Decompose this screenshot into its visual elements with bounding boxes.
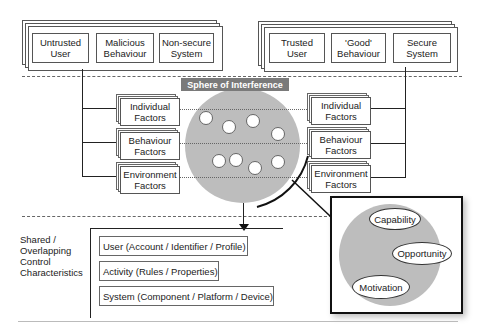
- malicious-behaviour-box: Malicious Behaviour: [96, 33, 154, 63]
- left-connector-behaviour: [82, 142, 116, 143]
- detail-panel: Capability Opportunity Motivation: [330, 196, 463, 314]
- actor-bubble: [222, 120, 236, 134]
- bottom-rule: [18, 321, 458, 322]
- left-individual-factors: Individual Factors: [116, 94, 178, 124]
- control-system: System (Component / Platform / Device): [99, 286, 274, 306]
- secure-system-box: Secure System: [393, 33, 451, 63]
- right-connector-behaviour: [371, 143, 406, 144]
- motivation-oval: Motivation: [352, 275, 410, 299]
- shared-controls-label: Shared / Overlapping Control Characteris…: [20, 234, 83, 278]
- actor-bubble: [212, 154, 226, 168]
- left-connector-bracket: [82, 108, 83, 176]
- left-connector-environment: [82, 176, 116, 177]
- detail-connector-line: [290, 178, 332, 218]
- right-connector-individual: [371, 108, 406, 109]
- good-behaviour-box: 'Good' Behaviour: [331, 33, 386, 63]
- actor-bubble: [199, 111, 213, 125]
- non-secure-system-box: Non-secure System: [159, 33, 214, 63]
- upper-dashed-divider: [22, 76, 462, 77]
- dotted-row-individual: [176, 109, 317, 110]
- opportunity-oval: Opportunity: [392, 242, 452, 265]
- right-connector-environment: [371, 177, 406, 178]
- left-behaviour-factors: Behaviour Factors: [116, 128, 178, 158]
- untrusted-user-box: Untrusted User: [32, 33, 89, 63]
- shared-controls-top-rule: [90, 228, 283, 229]
- sphere-label: Sphere of Interference: [181, 78, 289, 91]
- control-activity: Activity (Rules / Properties): [99, 261, 219, 281]
- capability-oval: Capability: [369, 208, 421, 230]
- left-connector-individual: [82, 108, 116, 109]
- right-behaviour-factors: Behaviour Factors: [307, 127, 369, 157]
- left-environment-factors: Environment Factors: [116, 162, 178, 192]
- actor-bubble: [246, 114, 260, 128]
- actor-bubble: [271, 127, 285, 141]
- shared-controls-left-rule: [90, 228, 91, 318]
- right-individual-factors: Individual Factors: [307, 93, 369, 123]
- control-user: User (Account / Identifier / Profile): [99, 236, 248, 256]
- lower-dashed-divider: [22, 216, 332, 217]
- trusted-user-box: Trusted User: [269, 33, 325, 63]
- right-connector-trunk: [405, 67, 406, 177]
